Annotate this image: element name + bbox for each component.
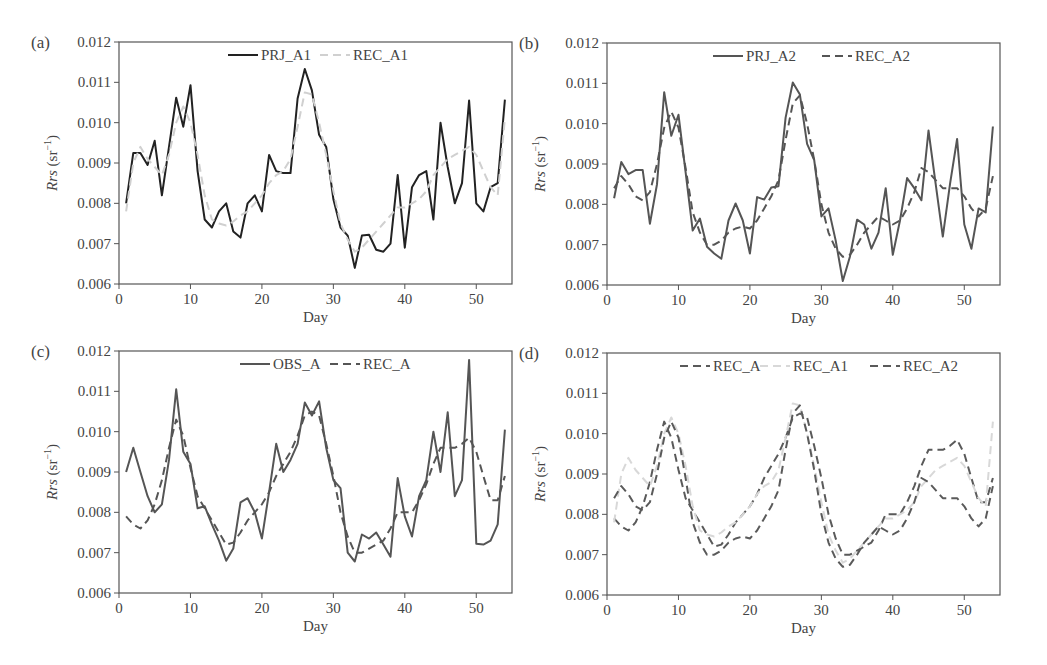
legend-label: OBS_A bbox=[273, 356, 321, 372]
y-tick-label: 0.007 bbox=[77, 236, 111, 252]
x-tick-label: 20 bbox=[742, 602, 757, 618]
x-axis-label: Day bbox=[303, 309, 328, 325]
y-tick-label: 0.006 bbox=[77, 276, 111, 292]
legend-label: REC_A bbox=[713, 358, 761, 374]
figure: (a)0.0060.0070.0080.0090.0100.0110.01201… bbox=[0, 0, 1047, 665]
y-tick-label: 0.008 bbox=[77, 504, 111, 520]
x-tick-label: 20 bbox=[254, 600, 269, 616]
series-rec-a bbox=[126, 412, 505, 553]
y-tick-label: 0.009 bbox=[77, 464, 111, 480]
x-tick-label: 20 bbox=[742, 292, 757, 308]
series-rec-a bbox=[614, 414, 993, 555]
plot-frame bbox=[607, 43, 1000, 285]
panel-label: (c) bbox=[31, 342, 50, 361]
y-tick-label: 0.010 bbox=[77, 424, 111, 440]
y-tick-label: 0.012 bbox=[565, 35, 599, 51]
x-tick-label: 40 bbox=[885, 602, 900, 618]
y-tick-label: 0.010 bbox=[77, 115, 111, 131]
series-rec-a1 bbox=[614, 403, 993, 562]
panel-label: (b) bbox=[519, 34, 539, 53]
y-tick-label: 0.009 bbox=[565, 466, 599, 482]
series-prj-a2 bbox=[614, 83, 993, 282]
legend-label: PRJ_A1 bbox=[261, 47, 311, 63]
x-axis-label: Day bbox=[791, 310, 816, 326]
legend-label: PRJ_A2 bbox=[746, 48, 796, 64]
x-tick-label: 0 bbox=[603, 292, 611, 308]
y-tick-label: 0.006 bbox=[565, 587, 599, 603]
x-tick-label: 50 bbox=[469, 291, 484, 307]
y-tick-label: 0.008 bbox=[565, 196, 599, 212]
x-tick-label: 40 bbox=[397, 291, 412, 307]
x-tick-label: 40 bbox=[885, 292, 900, 308]
series-rec-a2 bbox=[614, 405, 993, 566]
y-tick-label: 0.009 bbox=[77, 155, 111, 171]
y-axis-label: Rrs (sr−1) bbox=[42, 444, 61, 501]
panel-a: (a)0.0060.0070.0080.0090.0100.0110.01201… bbox=[31, 33, 512, 325]
x-tick-label: 30 bbox=[326, 291, 341, 307]
x-tick-label: 10 bbox=[183, 291, 198, 307]
y-tick-label: 0.009 bbox=[565, 156, 599, 172]
panel-label: (d) bbox=[519, 344, 539, 363]
x-axis-label: Day bbox=[303, 618, 328, 634]
x-tick-label: 10 bbox=[183, 600, 198, 616]
panel-d: (d)0.0060.0070.0080.0090.0100.0110.01201… bbox=[519, 344, 1000, 636]
y-axis-label: Rrs (sr−1) bbox=[530, 136, 549, 193]
y-tick-label: 0.011 bbox=[78, 383, 111, 399]
x-tick-label: 30 bbox=[814, 292, 829, 308]
y-tick-label: 0.010 bbox=[565, 426, 599, 442]
series-obs-a bbox=[126, 360, 505, 562]
panel-b: (b)0.0060.0070.0080.0090.0100.0110.01201… bbox=[519, 34, 1000, 326]
legend-label: REC_A1 bbox=[793, 358, 848, 374]
series-prj-a1 bbox=[126, 69, 505, 268]
y-tick-label: 0.007 bbox=[565, 237, 599, 253]
x-tick-label: 40 bbox=[397, 600, 412, 616]
y-tick-label: 0.008 bbox=[77, 195, 111, 211]
x-tick-label: 50 bbox=[957, 602, 972, 618]
y-tick-label: 0.007 bbox=[565, 547, 599, 563]
x-tick-label: 20 bbox=[254, 291, 269, 307]
y-tick-label: 0.008 bbox=[565, 506, 599, 522]
plot-frame bbox=[119, 42, 512, 284]
x-tick-label: 30 bbox=[326, 600, 341, 616]
x-tick-label: 50 bbox=[469, 600, 484, 616]
y-tick-label: 0.006 bbox=[77, 585, 111, 601]
legend-label: REC_A2 bbox=[855, 48, 910, 64]
x-tick-label: 0 bbox=[115, 291, 123, 307]
y-tick-label: 0.012 bbox=[77, 343, 111, 359]
y-tick-label: 0.006 bbox=[565, 277, 599, 293]
y-tick-label: 0.012 bbox=[77, 34, 111, 50]
x-tick-label: 0 bbox=[603, 602, 611, 618]
x-tick-label: 50 bbox=[957, 292, 972, 308]
legend-label: REC_A2 bbox=[903, 358, 958, 374]
y-tick-label: 0.011 bbox=[566, 75, 599, 91]
x-tick-label: 10 bbox=[671, 292, 686, 308]
x-tick-label: 0 bbox=[115, 600, 123, 616]
y-tick-label: 0.012 bbox=[565, 345, 599, 361]
panel-c: (c)0.0060.0070.0080.0090.0100.0110.01201… bbox=[31, 342, 512, 634]
legend-label: REC_A1 bbox=[353, 47, 408, 63]
x-axis-label: Day bbox=[791, 620, 816, 636]
x-tick-label: 30 bbox=[814, 602, 829, 618]
y-tick-label: 0.010 bbox=[565, 116, 599, 132]
y-axis-label: Rrs (sr−1) bbox=[530, 446, 549, 503]
legend-label: REC_A bbox=[363, 356, 411, 372]
plot-frame bbox=[607, 353, 1000, 595]
x-tick-label: 10 bbox=[671, 602, 686, 618]
y-tick-label: 0.011 bbox=[78, 74, 111, 90]
panel-label: (a) bbox=[31, 33, 50, 52]
y-tick-label: 0.007 bbox=[77, 545, 111, 561]
y-axis-label: Rrs (sr−1) bbox=[42, 135, 61, 192]
figure-svg: (a)0.0060.0070.0080.0090.0100.0110.01201… bbox=[0, 0, 1047, 665]
y-tick-label: 0.011 bbox=[566, 385, 599, 401]
